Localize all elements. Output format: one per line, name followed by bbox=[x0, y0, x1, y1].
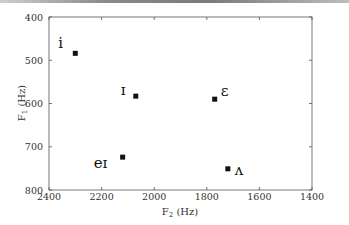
data-point: ɪ bbox=[121, 81, 138, 99]
square-marker-icon bbox=[120, 155, 125, 160]
square-marker-icon bbox=[133, 94, 138, 99]
y-tick-label: 500 bbox=[25, 55, 43, 66]
data-point: ʌ bbox=[225, 161, 244, 179]
x-tick-label: 2200 bbox=[90, 191, 114, 202]
vowel-label: ɛ bbox=[221, 82, 229, 100]
vowel-label: eɪ bbox=[94, 154, 108, 172]
y-tick-label: 800 bbox=[25, 185, 43, 196]
x-tick-label: 2000 bbox=[142, 191, 166, 202]
data-point: eɪ bbox=[94, 154, 126, 172]
y-axis-ticks: 400500600700800 bbox=[25, 12, 312, 196]
data-point: ɛ bbox=[212, 82, 229, 102]
square-marker-icon bbox=[212, 97, 217, 102]
x-axis-ticks: 240022002000180016001400 bbox=[37, 17, 324, 202]
vowel-label: ʌ bbox=[234, 161, 244, 179]
square-marker-icon bbox=[73, 51, 78, 56]
data-points: iɪɛeɪʌ bbox=[58, 34, 244, 178]
square-marker-icon bbox=[225, 166, 230, 171]
data-point: i bbox=[58, 34, 78, 56]
y-tick-label: 600 bbox=[25, 98, 43, 109]
x-tick-label: 1800 bbox=[195, 191, 219, 202]
y-tick-label: 400 bbox=[25, 12, 43, 23]
x-axis-label: F2 (Hz) bbox=[162, 206, 198, 219]
x-tick-label: 1400 bbox=[300, 191, 324, 202]
vowel-formant-chart: 240022002000180016001400 400500600700800… bbox=[0, 0, 349, 225]
vowel-label: i bbox=[58, 34, 63, 52]
plot-frame bbox=[49, 17, 312, 190]
y-tick-label: 700 bbox=[25, 141, 43, 152]
vowel-label: ɪ bbox=[121, 81, 126, 99]
x-tick-label: 1600 bbox=[247, 191, 271, 202]
